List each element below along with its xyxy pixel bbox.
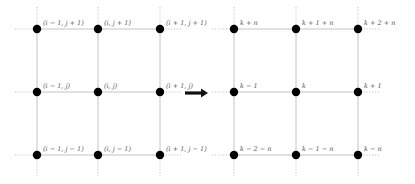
grid-node: [33, 88, 41, 96]
node-label: (i, j): [104, 82, 118, 90]
left-index-grid: (i − 1, j + 1)(i, j + 1)(i + 1, j + 1)(i…: [15, 7, 207, 177]
grid-node: [230, 25, 238, 33]
node-label: (i − 1, j + 1): [43, 19, 84, 27]
grid-node: [33, 25, 41, 33]
grid-node: [292, 151, 300, 159]
node-label: (i + 1, j + 1): [166, 19, 207, 27]
grid-node: [354, 88, 362, 96]
grid-node: [230, 151, 238, 159]
grid-node: [94, 25, 102, 33]
node-label: (i − 1, j − 1): [43, 145, 84, 153]
grid-node: [156, 88, 164, 96]
grid-node: [94, 88, 102, 96]
node-label: k − n: [364, 145, 382, 153]
grid-node: [94, 151, 102, 159]
node-label: (i + 1, j): [166, 82, 193, 90]
grid-mapping-diagram: (i − 1, j + 1)(i, j + 1)(i + 1, j + 1)(i…: [0, 0, 415, 184]
node-label: (i + 1, j − 1): [166, 145, 207, 153]
grid-node: [354, 151, 362, 159]
grid-node: [33, 151, 41, 159]
grid-node: [156, 25, 164, 33]
grid-node: [230, 88, 238, 96]
node-label: (i − 1, j): [43, 82, 70, 90]
right-linear-grid: k + nk + 1 + nk + 2 + nk − 1kk + 1k − 2 …: [212, 7, 395, 177]
node-label: (i, j + 1): [104, 19, 131, 27]
node-label: k − 1: [240, 82, 258, 90]
node-label: k + 2 + n: [364, 19, 395, 27]
node-label: k + 1: [364, 82, 382, 90]
node-label: k − 1 − n: [302, 145, 333, 153]
grid-node: [156, 151, 164, 159]
node-label: (i, j − 1): [104, 145, 131, 153]
grid-node: [292, 88, 300, 96]
node-label: k + 1 + n: [302, 19, 333, 27]
grid-node: [354, 25, 362, 33]
node-label: k: [302, 82, 306, 90]
node-label: k + n: [240, 19, 258, 27]
node-label: k − 2 − n: [240, 145, 271, 153]
grid-node: [292, 25, 300, 33]
